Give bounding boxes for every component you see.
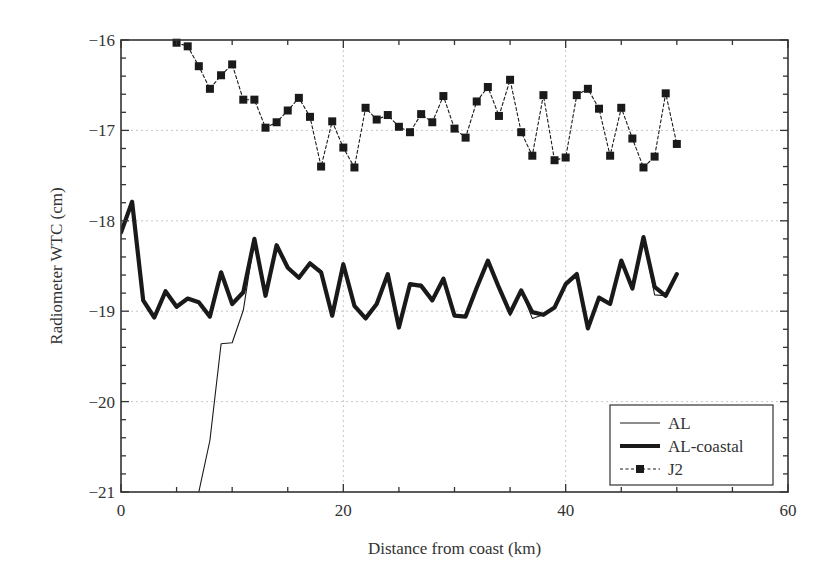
square-marker-icon	[350, 163, 358, 171]
x-axis-title: Distance from coast (km)	[368, 539, 541, 558]
square-marker-icon	[195, 62, 203, 70]
square-marker-icon	[539, 91, 547, 99]
square-marker-icon	[228, 60, 236, 68]
square-marker-icon	[506, 76, 514, 84]
legend-square-marker-icon	[636, 465, 644, 473]
legend-label-j2: J2	[668, 460, 683, 479]
square-marker-icon	[662, 89, 670, 97]
legend-label-al: AL	[668, 414, 691, 433]
square-marker-icon	[273, 118, 281, 126]
legend: AL AL-coastal J2	[610, 405, 773, 485]
y-tick-label: −21	[88, 483, 115, 502]
y-axis-title: Radiometer WTC (cm)	[47, 187, 66, 344]
square-marker-icon	[439, 92, 447, 100]
y-tick-label: −20	[88, 393, 115, 412]
square-marker-icon	[250, 96, 258, 104]
square-marker-icon	[373, 116, 381, 124]
square-marker-icon	[328, 117, 336, 125]
square-marker-icon	[217, 71, 225, 79]
square-marker-icon	[184, 42, 192, 50]
square-marker-icon	[573, 91, 581, 99]
x-tick-label: 40	[557, 501, 574, 520]
square-marker-icon	[617, 104, 625, 112]
x-tick-label: 20	[335, 501, 352, 520]
series-line-al	[199, 237, 677, 492]
square-marker-icon	[417, 110, 425, 118]
square-marker-icon	[362, 104, 370, 112]
square-marker-icon	[606, 152, 614, 160]
square-marker-icon	[528, 152, 536, 160]
square-marker-icon	[562, 154, 570, 162]
square-marker-icon	[639, 163, 647, 171]
square-marker-icon	[317, 163, 325, 171]
square-marker-icon	[517, 128, 525, 136]
square-marker-icon	[306, 113, 314, 121]
y-tick-label: −18	[88, 212, 115, 231]
series-line-al-coastal	[121, 202, 677, 329]
x-tick-label: 0	[117, 501, 126, 520]
square-marker-icon	[239, 96, 247, 104]
square-marker-icon	[395, 123, 403, 131]
square-marker-icon	[473, 97, 481, 105]
y-tick-label: −17	[88, 121, 115, 140]
square-marker-icon	[384, 111, 392, 119]
square-marker-icon	[651, 153, 659, 161]
y-tick-label: −19	[88, 302, 115, 321]
square-marker-icon	[428, 118, 436, 126]
x-tick-label: 60	[780, 501, 797, 520]
square-marker-icon	[584, 85, 592, 93]
chart-canvas: 0204060−16−17−18−19−20−21 Distance from …	[0, 0, 835, 587]
square-marker-icon	[451, 125, 459, 133]
square-marker-icon	[495, 112, 503, 120]
square-marker-icon	[462, 134, 470, 142]
square-marker-icon	[484, 83, 492, 91]
square-marker-icon	[406, 128, 414, 136]
legend-label-al-coastal: AL-coastal	[668, 437, 744, 456]
square-marker-icon	[628, 135, 636, 143]
square-marker-icon	[673, 140, 681, 148]
square-marker-icon	[339, 144, 347, 152]
square-marker-icon	[262, 124, 270, 132]
square-marker-icon	[206, 85, 214, 93]
y-tick-label: −16	[88, 31, 115, 50]
square-marker-icon	[295, 94, 303, 102]
square-marker-icon	[551, 156, 559, 164]
square-marker-icon	[595, 105, 603, 113]
square-marker-icon	[284, 107, 292, 115]
series-layer	[121, 39, 681, 492]
